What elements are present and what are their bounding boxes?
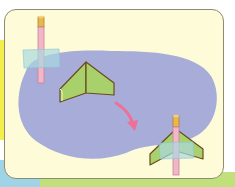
- tape-piece: [23, 49, 60, 68]
- tape-piece: [159, 142, 194, 159]
- illustration: [5, 10, 224, 179]
- illustration-panel: [4, 9, 224, 179]
